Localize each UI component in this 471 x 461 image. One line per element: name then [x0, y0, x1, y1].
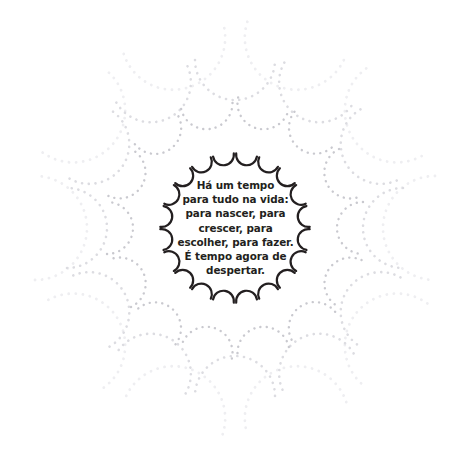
scallop-arc: [363, 188, 403, 268]
scallop-arc: [289, 112, 335, 154]
scallop-arc: [383, 176, 435, 280]
scallop-arc: [67, 188, 107, 268]
scallop-arc: [277, 168, 295, 186]
scallop-arc: [341, 272, 401, 347]
scallop-arc: [181, 327, 232, 359]
scallop-arc: [245, 22, 346, 90]
scallop-arc: [116, 63, 191, 123]
scallop-arc: [341, 109, 401, 184]
scallop-arc: [213, 291, 234, 303]
scallop-arc: [181, 97, 232, 129]
scallop-arc: [258, 284, 278, 299]
scallop-arc: [107, 202, 133, 254]
scallop-arc: [124, 22, 225, 90]
scallop-arc: [192, 157, 212, 172]
decorative-ring-outer: [35, 22, 435, 435]
scallop-arc: [108, 149, 145, 198]
scallop-arc: [289, 302, 335, 344]
scallop-arc: [236, 153, 257, 165]
decorative-ring-third: [67, 60, 403, 396]
decorative-ring-inner: [160, 153, 309, 302]
scallop-arc: [345, 294, 428, 388]
scallop-arc: [237, 327, 288, 359]
scallop-arc: [70, 272, 130, 347]
scallop-arc: [245, 366, 346, 434]
scallop-arc: [213, 153, 234, 165]
scallop-arc: [164, 251, 179, 271]
scallop-arc: [324, 258, 361, 307]
scallop-arc: [277, 270, 295, 288]
decorative-ring-second: [107, 97, 363, 358]
scallop-arc: [116, 334, 191, 394]
poster-canvas: Há um tempo para tudo na vida: para nasc…: [0, 0, 471, 461]
scallop-arc: [237, 97, 288, 129]
scallop-arc: [192, 284, 212, 299]
scallop-arc: [298, 206, 310, 227]
scallop-arc: [258, 157, 278, 172]
scallop-arc: [195, 60, 275, 100]
scallop-arc: [337, 202, 363, 254]
scallop-arc: [175, 270, 193, 288]
scallop-arc: [43, 68, 126, 162]
scallop-arc: [160, 206, 172, 227]
scalloped-mandala-ornament: [0, 0, 471, 461]
scallop-arc: [195, 356, 275, 396]
scallop-arc: [124, 366, 225, 434]
scallop-arc: [298, 229, 310, 250]
scallop-arc: [135, 112, 181, 154]
scallop-arc: [279, 334, 354, 394]
scallop-arc: [35, 176, 87, 280]
scallop-arc: [43, 294, 126, 388]
scallop-arc: [291, 185, 306, 205]
scallop-arc: [236, 291, 257, 303]
scallop-arc: [345, 68, 428, 162]
scallop-arc: [164, 185, 179, 205]
scallop-arc: [70, 109, 130, 184]
scallop-arc: [175, 168, 193, 186]
scallop-arc: [291, 251, 306, 271]
scallop-arc: [279, 63, 354, 123]
scallop-arc: [135, 302, 181, 344]
scallop-arc: [160, 229, 172, 250]
